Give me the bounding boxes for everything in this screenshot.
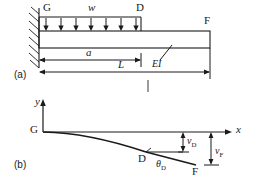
deflection-curve-loaded-segment (43, 132, 146, 152)
panel-b-tag: (b) (14, 160, 26, 170)
load-arrow (118, 18, 123, 31)
theta-subscript: D (161, 164, 166, 171)
label-curve-point-f: F (192, 166, 198, 177)
load-arrow (133, 18, 138, 31)
label-deflection-vf: vF (215, 146, 223, 159)
panel-a-tag: (a) (14, 70, 26, 80)
load-arrow (73, 18, 78, 31)
label-slope-theta-d: θD (156, 159, 166, 172)
distributed-load-arrows (43, 18, 138, 31)
label-support-g: G (43, 2, 51, 13)
dimension-line-L (39, 48, 210, 79)
label-free-end-f: F (204, 15, 210, 26)
beam-deflection-figure (0, 0, 253, 187)
label-axis-y: y (35, 96, 40, 107)
label-dimension-L: L (118, 59, 124, 70)
label-flexural-rigidity-ei: EI (152, 59, 161, 69)
load-arrow (43, 18, 48, 31)
label-deflection-vd: vD (187, 136, 196, 149)
deflection-curve-free-segment (146, 152, 196, 165)
wall-hatching-icon (29, 7, 39, 68)
label-load-w: w (88, 2, 95, 13)
label-curve-point-d: D (138, 153, 146, 164)
label-origin-g: G (30, 124, 38, 135)
y-axis (40, 99, 46, 132)
beam-body (39, 31, 210, 48)
label-axis-x: x (236, 124, 241, 135)
label-point-d: D (136, 2, 144, 13)
label-dimension-a: a (86, 47, 92, 58)
vf-subscript: F (219, 151, 223, 158)
ei-leader-line (160, 45, 172, 60)
load-arrow (58, 18, 63, 31)
load-arrow (103, 18, 108, 31)
vd-subscript: D (191, 141, 196, 148)
angle-tick-at-d (146, 148, 151, 152)
load-arrow (88, 18, 93, 31)
